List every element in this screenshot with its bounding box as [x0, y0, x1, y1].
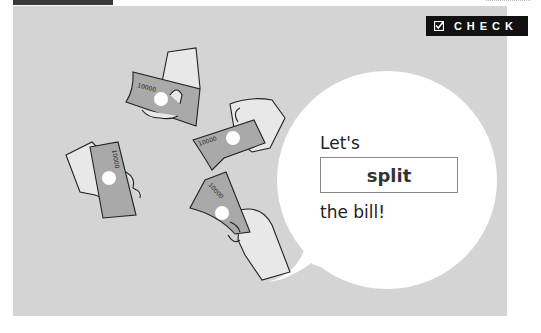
- bubble-highlight-word: split: [367, 165, 412, 186]
- hand-with-bill-bottom: 10000: [190, 172, 290, 280]
- bubble-text-the-bill: the bill!: [320, 202, 385, 222]
- hand-with-bill-top: 10000: [126, 48, 200, 126]
- hands-illustration: 10000 10000 10000 10000: [0, 0, 541, 333]
- bubble-text-lets: Let's: [320, 133, 360, 153]
- hand-with-bill-right: 10000: [193, 99, 285, 170]
- hand-with-bill-left: 10000: [66, 142, 140, 218]
- bubble-highlight-box: split: [320, 157, 458, 193]
